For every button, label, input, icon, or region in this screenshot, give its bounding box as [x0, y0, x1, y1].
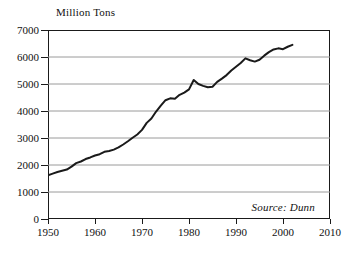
y-tick-mark-7000	[41, 30, 48, 31]
plot-canvas	[48, 30, 330, 219]
grain-production-line-chart: Million Tons 010002000300040005000600070…	[0, 0, 351, 255]
y-tick-label-7000: 7000	[0, 25, 39, 36]
y-tick-mark-0	[41, 219, 48, 220]
gridlines-group	[48, 57, 330, 192]
y-tick-label-6000: 6000	[0, 52, 39, 63]
y-tick-label-2000: 2000	[0, 160, 39, 171]
y-tick-mark-6000	[41, 57, 48, 58]
y-axis-title: Million Tons	[56, 6, 115, 19]
x-tick-mark-2010	[330, 219, 331, 224]
x-tick-label-1950: 1950	[24, 227, 72, 238]
y-tick-label-4000: 4000	[0, 106, 39, 117]
y-tick-mark-3000	[41, 138, 48, 139]
x-tick-label-1990: 1990	[212, 227, 260, 238]
y-tick-label-5000: 5000	[0, 79, 39, 90]
source-annotation: Source: Dunn	[252, 201, 315, 213]
y-tick-label-1000: 1000	[0, 187, 39, 198]
y-tick-label-0: 0	[0, 214, 39, 225]
x-tick-mark-1960	[95, 219, 96, 224]
y-tick-mark-5000	[41, 84, 48, 85]
y-tick-mark-4000	[41, 111, 48, 112]
x-tick-mark-1990	[236, 219, 237, 224]
x-tick-mark-1970	[142, 219, 143, 224]
x-tick-label-2010: 2010	[306, 227, 351, 238]
x-tick-mark-1980	[189, 219, 190, 224]
data-series-group	[48, 45, 292, 175]
x-tick-label-1970: 1970	[118, 227, 166, 238]
x-tick-label-1960: 1960	[71, 227, 119, 238]
x-tick-label-1980: 1980	[165, 227, 213, 238]
y-tick-mark-2000	[41, 165, 48, 166]
data-line-series-0	[48, 45, 292, 175]
y-tick-mark-1000	[41, 192, 48, 193]
x-tick-label-2000: 2000	[259, 227, 307, 238]
x-tick-mark-1950	[48, 219, 49, 224]
y-tick-label-3000: 3000	[0, 133, 39, 144]
x-tick-mark-2000	[283, 219, 284, 224]
